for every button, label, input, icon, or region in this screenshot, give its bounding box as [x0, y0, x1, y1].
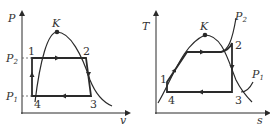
ts-point-1: 1	[160, 73, 167, 86]
pv-arrow-1-up	[30, 72, 35, 77]
pv-point-4: 4	[34, 98, 41, 111]
ts-point-4: 4	[168, 94, 175, 107]
pv-diagram: P v K P2 P1 1 2 3 4	[5, 12, 128, 127]
pv-p1-label: P1	[5, 90, 18, 104]
pv-arrow-3-4	[61, 94, 66, 99]
pv-y-axis-label: P	[7, 12, 16, 25]
ts-arrow-evap	[200, 50, 205, 55]
ts-diagram: T s K P2 P1 1 2 3 4	[142, 10, 268, 127]
ts-y-axis-label: T	[142, 20, 151, 33]
ts-point-2: 2	[235, 39, 242, 52]
pv-point-3: 3	[90, 98, 97, 111]
ts-critical-point-label: K	[199, 20, 209, 33]
pv-arrow-2-3	[86, 72, 91, 77]
ts-cycle	[167, 43, 232, 92]
pv-arrow-1-2	[55, 56, 60, 61]
ts-point-3: 3	[235, 94, 242, 107]
ts-arrow-3-4	[198, 90, 203, 95]
ts-x-axis-label: s	[257, 114, 263, 127]
pv-point-2: 2	[83, 45, 90, 58]
ts-critical-point-marker	[203, 33, 208, 38]
ts-p1-label: P1	[251, 68, 264, 82]
pv-p2-label: P2	[5, 52, 18, 66]
pv-x-axis-label: v	[120, 114, 127, 127]
cycle-diagrams: P v K P2 P1 1 2 3 4 T s K P2 P1 1 2 3	[0, 0, 270, 135]
pv-critical-point-marker	[55, 30, 60, 35]
pv-saturation-dome	[35, 32, 112, 106]
pv-critical-point-label: K	[51, 17, 61, 30]
ts-p2-label: P2	[234, 10, 247, 24]
ts-arrow-2-3	[230, 65, 235, 70]
ts-p2-isobar	[221, 18, 236, 52]
pv-point-1: 1	[28, 45, 35, 58]
